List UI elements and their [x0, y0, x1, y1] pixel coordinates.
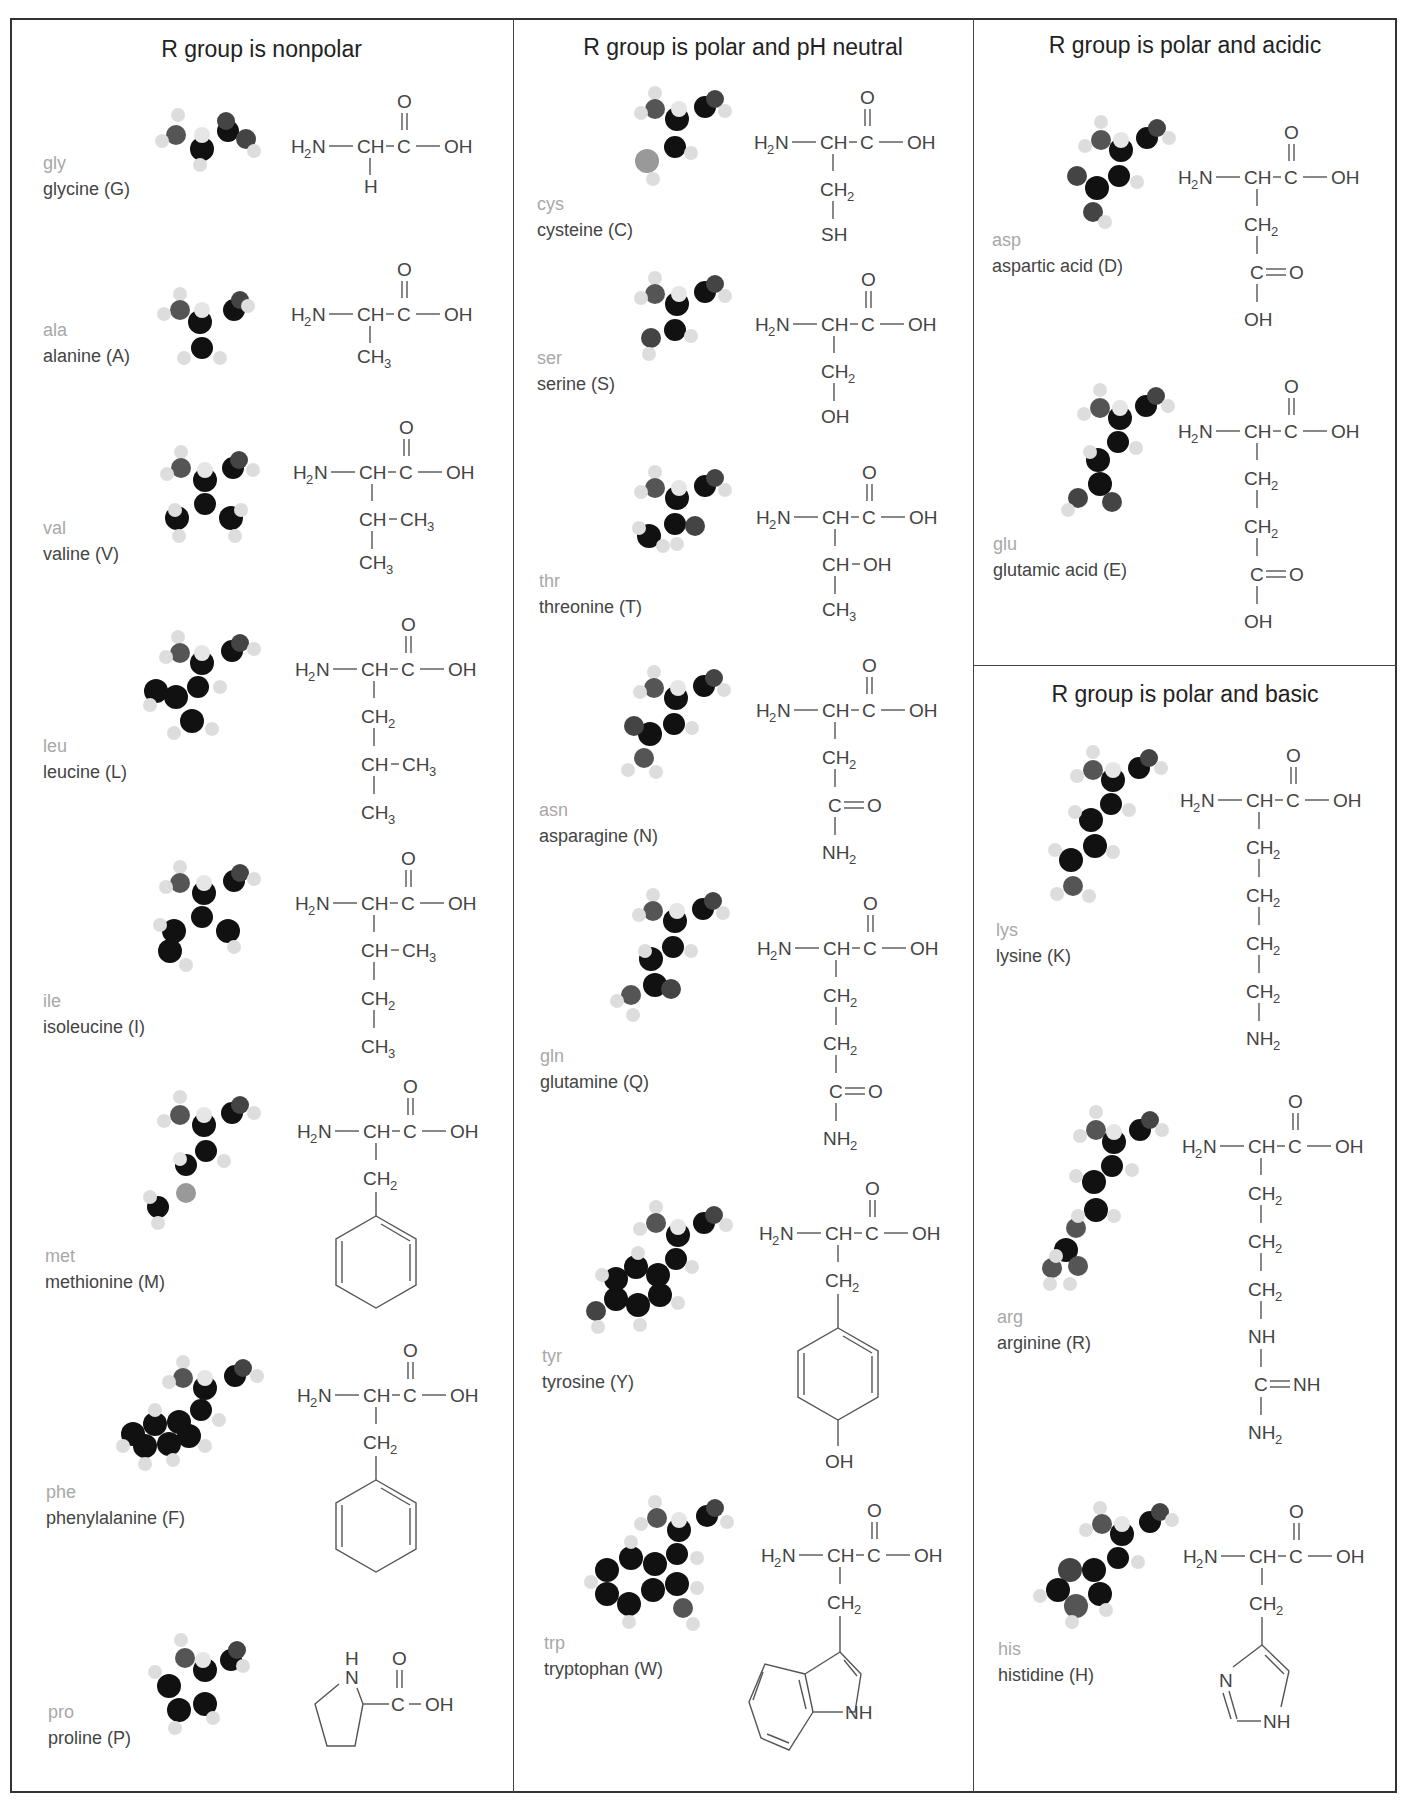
structural-formula-trp: H2N CH C O OH CH2 NH	[761, 1555, 981, 1785]
ball-and-stick-model-gln	[605, 885, 745, 1035]
svg-text:2: 2	[304, 146, 311, 161]
svg-text:O: O	[867, 795, 882, 816]
abbr: pro	[48, 1699, 131, 1725]
svg-text:CH: CH	[1248, 1183, 1275, 1204]
svg-text:N: N	[1203, 1136, 1217, 1157]
svg-text:CH: CH	[1244, 214, 1271, 235]
svg-text:N: N	[1204, 1546, 1218, 1567]
svg-text:OH: OH	[446, 462, 475, 483]
svg-text:OH: OH	[825, 1451, 854, 1472]
svg-text:2: 2	[308, 903, 315, 918]
full-name: tryptophan (W)	[544, 1656, 663, 1682]
svg-text:2: 2	[847, 189, 854, 204]
structural-formula-phe: H2N CH C O OH CH2	[297, 1395, 517, 1595]
structural-formula-arg: H2N CH C O OH CH2 CH2 CH2 NH CNH NH2	[1182, 1146, 1402, 1476]
svg-text:CH: CH	[821, 361, 848, 382]
svg-text:CH: CH	[1246, 837, 1273, 858]
svg-text:3: 3	[427, 519, 434, 534]
svg-text:OH: OH	[863, 554, 892, 575]
full-name: methionine (M)	[45, 1269, 165, 1295]
svg-text:2: 2	[770, 948, 777, 963]
svg-text:OH: OH	[909, 700, 938, 721]
svg-text:H: H	[1182, 1136, 1196, 1157]
svg-text:H: H	[295, 893, 309, 914]
abbr: phe	[46, 1479, 185, 1505]
ball-and-stick-model-lys	[1045, 742, 1185, 902]
structural-formula-lys: H2N CH C O OH CH2 CH2 CH2 CH2 NH2	[1180, 800, 1400, 1060]
svg-text:CH: CH	[823, 938, 850, 959]
amino-acid-label-met: metmethionine (M)	[45, 1243, 165, 1295]
svg-text:N: N	[345, 1667, 359, 1688]
svg-text:2: 2	[849, 852, 856, 867]
svg-text:OH: OH	[448, 659, 477, 680]
svg-text:C: C	[860, 132, 874, 153]
svg-text:C: C	[401, 659, 415, 680]
svg-text:C: C	[863, 938, 877, 959]
structural-formula-asn: H2N CH C O OH CH2 CO NH2	[756, 710, 976, 870]
svg-text:OH: OH	[1244, 309, 1273, 330]
svg-text:CH: CH	[1244, 468, 1271, 489]
svg-text:O: O	[863, 893, 878, 914]
svg-text:O: O	[861, 269, 876, 290]
svg-text:O: O	[403, 1076, 418, 1097]
abbr: leu	[43, 733, 127, 759]
amino-acid-label-ile: ileisoleucine (I)	[43, 988, 145, 1040]
amino-acid-label-lys: lyslysine (K)	[996, 917, 1071, 969]
ball-and-stick-model-ile	[150, 855, 270, 985]
structural-formula-ile: H2N CH C O OH CHCH3 CH2 CH3	[295, 903, 515, 1073]
svg-text:NH: NH	[1248, 1326, 1275, 1347]
svg-text:C: C	[397, 304, 411, 325]
full-name: alanine (A)	[43, 343, 130, 369]
svg-text:CH: CH	[402, 940, 429, 961]
amino-acid-label-gly: glyglycine (G)	[43, 150, 130, 202]
section-title-nonpolar: R group is nonpolar	[10, 36, 513, 63]
svg-text:C: C	[867, 1545, 881, 1566]
svg-text:CH: CH	[363, 1432, 390, 1453]
section-title-polar-neutral: R group is polar and pH neutral	[513, 34, 973, 61]
svg-text:C: C	[401, 893, 415, 914]
svg-text:2: 2	[1273, 991, 1280, 1006]
svg-text:N: N	[1219, 1670, 1233, 1691]
svg-text:O: O	[1289, 262, 1304, 283]
svg-text:2: 2	[772, 1233, 779, 1248]
amino-acid-label-tyr: tyrtyrosine (Y)	[542, 1343, 634, 1395]
abbr: ala	[43, 317, 130, 343]
svg-text:3: 3	[384, 356, 391, 371]
structural-formula-val: H2N CH C O OH CH–OH CHCH3 CH3	[293, 472, 513, 592]
svg-text:H: H	[754, 132, 768, 153]
svg-text:NH: NH	[1248, 1422, 1275, 1443]
svg-text:H: H	[756, 507, 770, 528]
abbr: glu	[993, 531, 1127, 557]
svg-text:C: C	[1254, 1374, 1268, 1395]
svg-text:N: N	[1199, 421, 1213, 442]
svg-text:O: O	[401, 848, 416, 869]
svg-text:H: H	[1178, 421, 1192, 442]
svg-text:CH: CH	[1249, 1546, 1276, 1567]
svg-text:CH: CH	[822, 507, 849, 528]
ball-and-stick-model-leu	[140, 625, 270, 750]
svg-text:2: 2	[849, 757, 856, 772]
ball-and-stick-model-arg	[1040, 1100, 1180, 1300]
structural-formula-ser: H2N CH C O OH CH2 OH	[755, 324, 955, 434]
svg-text:2: 2	[1275, 1193, 1282, 1208]
svg-text:CH: CH	[357, 136, 384, 157]
abbr: ile	[43, 988, 145, 1014]
svg-text:2: 2	[1195, 1146, 1202, 1161]
full-name: aspartic acid (D)	[992, 253, 1123, 279]
svg-text:C: C	[1288, 1136, 1302, 1157]
full-name: glutamine (Q)	[540, 1069, 649, 1095]
ball-and-stick-model-tyr	[580, 1195, 740, 1335]
svg-text:2: 2	[310, 1131, 317, 1146]
ball-and-stick-model-trp	[585, 1492, 745, 1632]
svg-text:C: C	[399, 462, 413, 483]
amino-acid-label-cys: cyscysteine (C)	[537, 191, 633, 243]
svg-text:3: 3	[388, 1046, 395, 1061]
abbr: gln	[540, 1043, 649, 1069]
ball-and-stick-model-asn	[620, 662, 750, 792]
svg-text:2: 2	[306, 472, 313, 487]
ball-and-stick-model-met	[128, 1085, 268, 1235]
svg-text:CH: CH	[1248, 1136, 1275, 1157]
ball-and-stick-model-his	[1030, 1498, 1190, 1628]
svg-text:CH: CH	[822, 747, 849, 768]
svg-text:OH: OH	[1336, 1546, 1365, 1567]
